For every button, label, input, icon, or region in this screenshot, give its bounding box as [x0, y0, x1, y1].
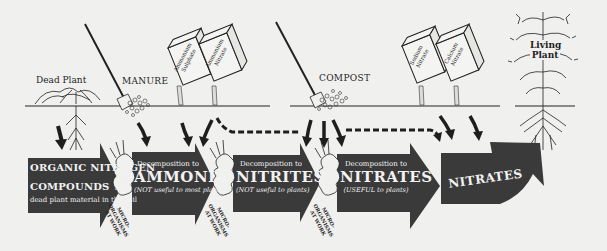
compost-shovel-icon [276, 22, 348, 111]
label-compost: COMPOST [319, 73, 370, 83]
arrow-compost-to-ammonia [307, 120, 311, 138]
stage-nitrites-text: Decomposition to NITRITES (NOT useful to… [236, 160, 306, 194]
arrow-ammonium-sulphate-to-ammonia [182, 123, 188, 139]
dashed-compost-to-nitrates [346, 130, 438, 136]
manure-shovel-icon [85, 24, 150, 117]
stage-organic-nitrogen-text: ORGANIC NITROGEN COMPOUNDS from dead pla… [30, 162, 110, 204]
arrow-sodium-nitrate [440, 116, 450, 132]
flow-arrows [138, 116, 478, 139]
diagram-artwork [0, 0, 607, 251]
dashed-ammonium-nitrate-to-nitrates [217, 118, 300, 132]
arrow-compost-to-nitrates [333, 120, 341, 138]
dead-plant-icon [35, 88, 100, 150]
label-living-plant: Living Plant [530, 40, 560, 60]
stage-nitrates-decomposition-text: Decomposition to NITRATES (USEFUL to pla… [340, 160, 412, 194]
dashed-flow-lines [217, 118, 438, 136]
arrow-manure-to-ammonia [138, 123, 146, 139]
arrow-ammonium-nitrate-to-ammonia [204, 120, 212, 138]
arrow-calcium-nitrate [470, 116, 478, 133]
label-dead-plant: Dead Plant [36, 75, 86, 85]
label-manure: MANURE [122, 76, 168, 86]
stage-ammonia-text: Decomposition to AMMONIA (NOT useful to … [134, 160, 202, 194]
living-plant-icon [508, 12, 578, 150]
nitrogen-cycle-diagram: Dead Plant MANURE COMPOST Living Plant A… [0, 0, 607, 251]
